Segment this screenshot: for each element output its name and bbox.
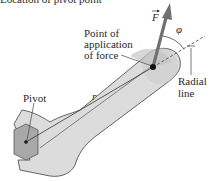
label-pivot: Pivot [23, 93, 46, 104]
application-dot [150, 64, 156, 70]
wrench-torque-diagram: Location of pivot point [0, 0, 212, 181]
application-region [142, 48, 178, 84]
label-angle-phi: φ [176, 24, 182, 35]
force-arrowhead [162, 3, 172, 20]
label-radial-line-2: line [178, 88, 195, 99]
label-radius: r [92, 91, 96, 102]
angle-arc [163, 36, 184, 49]
label-radial-line-1: Radial [178, 76, 207, 87]
label-force: F [152, 12, 159, 23]
label-point-of-application-3: of force [84, 50, 119, 61]
